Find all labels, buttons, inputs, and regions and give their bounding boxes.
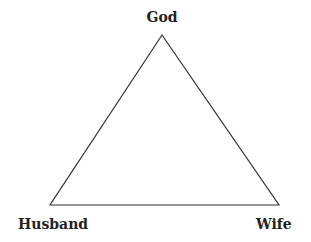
node-label-husband: Husband (18, 217, 88, 231)
triangle-outline (50, 35, 279, 205)
triangle-diagram: God Husband Wife (0, 0, 311, 242)
triangle-shape (0, 0, 311, 242)
node-label-wife: Wife (256, 217, 292, 231)
node-label-god: God (146, 10, 177, 24)
